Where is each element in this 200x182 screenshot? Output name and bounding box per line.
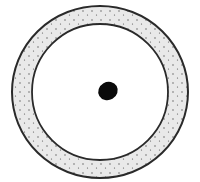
ring-diagram [0, 0, 200, 182]
